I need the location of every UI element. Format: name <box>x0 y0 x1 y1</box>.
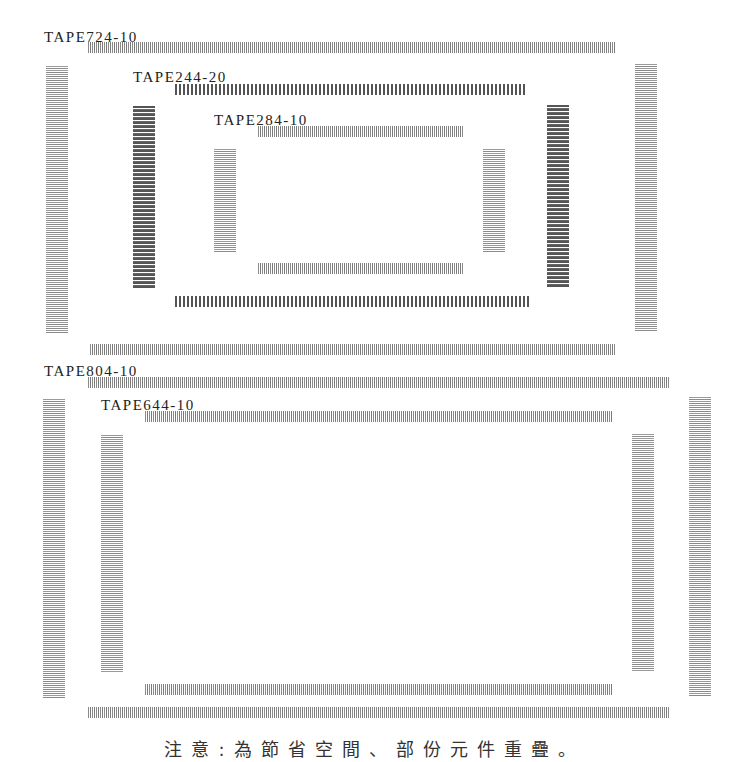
tape284-left-pin-column <box>214 149 236 253</box>
tape644-bottom-pin-row <box>145 684 613 695</box>
tape644-top-pin-row <box>145 411 612 422</box>
tape724-left-pin-column <box>46 66 68 334</box>
tape244-right-pin-column <box>547 105 569 287</box>
tape724-right-pin-column <box>635 64 657 332</box>
tape284-bottom-pin-row <box>258 263 464 274</box>
tape284-top-pin-row <box>258 126 463 137</box>
tape644-left-pin-column <box>101 435 123 673</box>
tape244-bottom-pin-row <box>175 296 529 307</box>
tape244-top-pin-row <box>175 84 527 95</box>
tape724-top-pin-row <box>88 42 616 53</box>
tape804-top-pin-row <box>88 377 670 388</box>
tape804-right-pin-column <box>689 397 711 697</box>
overlap-note: 注意:為節省空間、部份元件重疊。 <box>0 735 749 761</box>
tape284-right-pin-column <box>483 149 505 253</box>
package-label-tape244-20: TAPE244-20 <box>133 70 227 85</box>
tape644-right-pin-column <box>632 434 654 672</box>
tape244-left-pin-column <box>133 106 155 288</box>
tape724-bottom-pin-row <box>90 344 616 355</box>
tape804-bottom-pin-row <box>88 707 670 718</box>
tape804-left-pin-column <box>43 399 65 698</box>
